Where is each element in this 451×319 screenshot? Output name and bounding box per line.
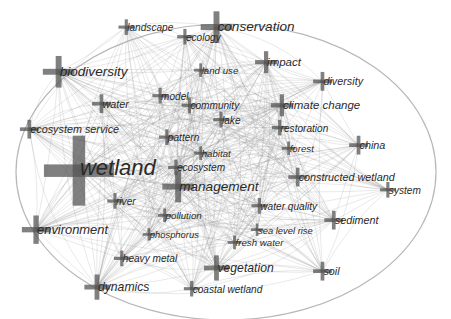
node-label-constructed-wetland: constructed wetland [299, 171, 396, 183]
node-label-vegetation: vegetation [217, 261, 273, 275]
node-label-forest: forest [290, 143, 316, 154]
node-label-coastal-wetland: coastal wetland [193, 284, 263, 295]
edge-environment-ecosystem-service [29, 129, 37, 229]
node-label-ecosystem-service: ecosystem service [30, 123, 119, 135]
node-label-china: china [360, 139, 386, 151]
node-label-climate-change: climate change [283, 99, 360, 111]
edge-environment-dynamics [36, 230, 97, 287]
network-svg: wetlandconservationbiodiversitymanagemen… [0, 0, 451, 319]
node-label-land-use: land use [202, 65, 239, 76]
node-label-dynamics: dynamics [98, 280, 149, 294]
node-label-soil: soil [323, 265, 340, 277]
node-label-community: community [190, 100, 240, 111]
node-label-heavy-metal: heavy metal [123, 253, 178, 264]
node-label-system: system [389, 185, 421, 196]
node-label-impact: impact [267, 56, 302, 68]
node-label-model: model [161, 91, 189, 102]
node-label-landscape: landscape [127, 22, 173, 33]
node-label-phosphorus: phosphorus [149, 229, 199, 240]
node-label-river: river [116, 196, 136, 207]
network-diagram: wetlandconservationbiodiversitymanagemen… [0, 0, 451, 319]
edge-biodiversity-ecosystem-service [29, 72, 58, 129]
node-label-sea-level-rise: sea level rise [258, 225, 313, 236]
node-label-lake: lake [222, 115, 241, 126]
node-label-ecosystem: ecosystem [177, 162, 225, 173]
node-label-restoration: restoration [281, 123, 329, 134]
node-label-water: water [102, 98, 129, 110]
node-label-pattern: pattern [167, 132, 200, 143]
node-label-sediment: sediment [335, 214, 380, 226]
node-label-diversity: diversity [323, 75, 363, 87]
node-label-management: management [179, 179, 260, 194]
node-label-water-quality: water quality [260, 201, 318, 212]
node-label-conservation: conservation [217, 19, 294, 34]
node-label-environment: environment [37, 222, 109, 237]
node-label-ecology: ecology [186, 32, 222, 43]
node-label-fresh-water: fresh water [236, 237, 285, 248]
node-label-wetland: wetland [80, 155, 157, 180]
node-label-pollution: pollution [165, 210, 202, 221]
node-label-habitat: habitat [202, 148, 232, 159]
node-label-biodiversity: biodiversity [60, 64, 129, 79]
